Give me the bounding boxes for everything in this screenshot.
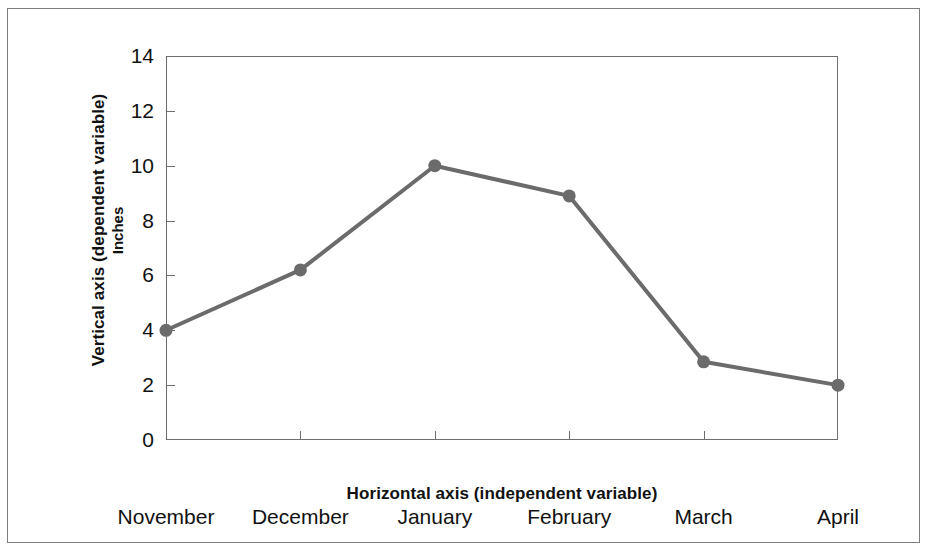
y-axis-tick-label: 8 [114, 210, 154, 231]
data-point-marker [832, 379, 845, 392]
data-point-marker [294, 263, 307, 276]
data-point-marker [160, 324, 173, 337]
series-line [166, 166, 838, 385]
y-axis-tick-label: 12 [114, 100, 154, 121]
x-axis-tick-label: April [753, 506, 923, 527]
y-axis-tick-label: 6 [114, 264, 154, 285]
y-axis-tick-label: 14 [114, 45, 154, 66]
data-point-marker [428, 159, 441, 172]
y-axis-tick-label: 0 [114, 429, 154, 450]
horizontal-axis-caption: Horizontal axis (independent variable) [166, 484, 838, 504]
y-axis-tick-label: 10 [114, 155, 154, 176]
plot-area: 02468101214 NovemberDecemberJanuaryFebru… [166, 56, 838, 440]
vertical-axis-caption: Vertical axis (dependent variable) [89, 65, 109, 395]
data-series-line [166, 56, 838, 440]
y-axis-tick-label: 4 [114, 319, 154, 340]
data-point-marker [563, 189, 576, 202]
data-point-marker [697, 355, 710, 368]
y-axis-tick-label: 2 [114, 374, 154, 395]
chart-figure: Vertical axis (dependent variable) Inche… [0, 0, 928, 551]
